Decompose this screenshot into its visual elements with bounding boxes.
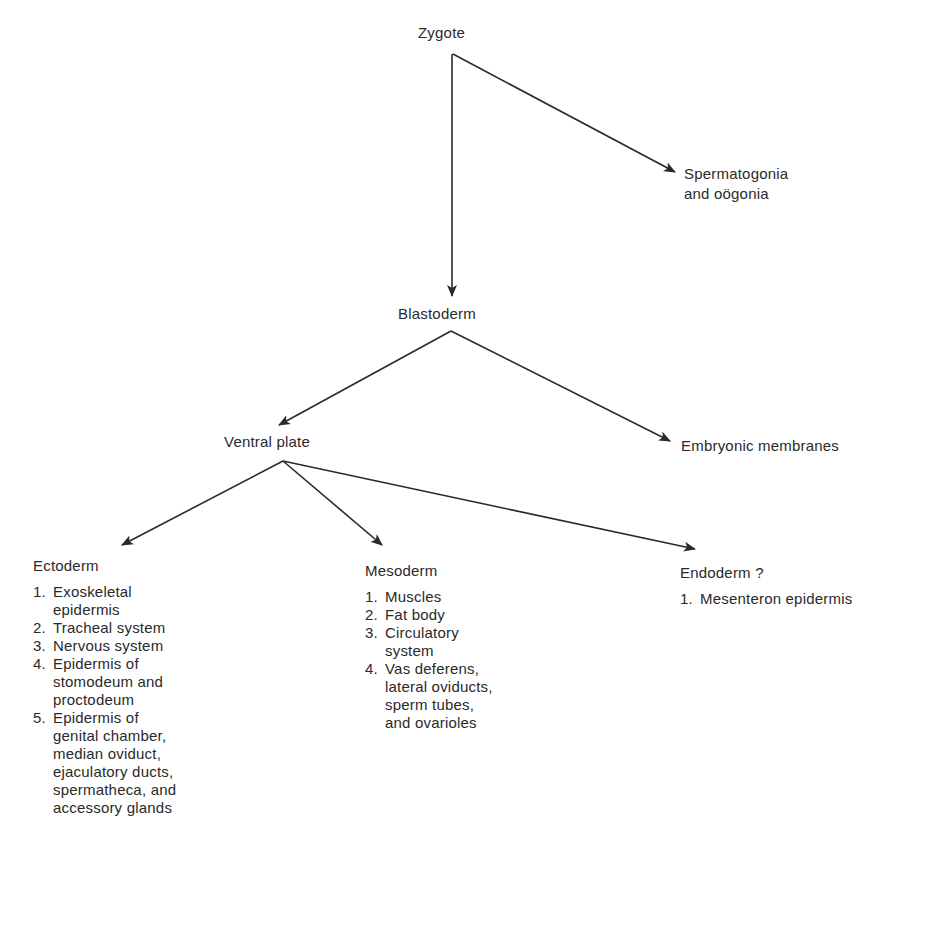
node-germ-cells: Spermatogonia and oögonia — [684, 164, 788, 204]
item-text: Tracheal system — [53, 619, 176, 637]
item-number: 1. — [365, 588, 378, 606]
list-item: 3.Circulatory system — [365, 624, 493, 660]
edge-blastoderm-to-ventral-plate — [279, 331, 451, 425]
item-text: Epidermis of genital chamber, median ovi… — [53, 709, 176, 817]
item-number: 3. — [365, 624, 378, 642]
item-text: Nervous system — [53, 637, 176, 655]
node-ventral-plate: Ventral plate — [224, 433, 310, 451]
node-zygote: Zygote — [418, 24, 465, 42]
list-item: 5.Epidermis of genital chamber, median o… — [33, 709, 176, 817]
endoderm-group: Endoderm ? 1.Mesenteron epidermis — [680, 564, 852, 608]
item-number: 4. — [33, 655, 46, 673]
item-text: Exoskeletal epidermis — [53, 583, 176, 619]
mesoderm-list: 1.Muscles 2.Fat body 3.Circulatory syste… — [365, 588, 493, 732]
item-text: Circulatory system — [385, 624, 493, 660]
ectoderm-group: Ectoderm 1.Exoskeletal epidermis 2.Trach… — [33, 557, 176, 817]
item-number: 4. — [365, 660, 378, 678]
edge-ventral-plate-to-ectoderm — [122, 461, 283, 545]
list-item: 1.Exoskeletal epidermis — [33, 583, 176, 619]
list-item: 2.Fat body — [365, 606, 493, 624]
item-number: 2. — [33, 619, 46, 637]
item-text: Fat body — [385, 606, 493, 624]
item-number: 5. — [33, 709, 46, 727]
mesoderm-title: Mesoderm — [365, 562, 493, 580]
item-text: Epidermis of stomodeum and proctodeum — [53, 655, 176, 709]
item-text: Vas deferens, lateral oviducts, sperm tu… — [385, 660, 493, 732]
item-number: 2. — [365, 606, 378, 624]
mesoderm-group: Mesoderm 1.Muscles 2.Fat body 3.Circulat… — [365, 562, 493, 732]
list-item: 1.Muscles — [365, 588, 493, 606]
list-item: 3.Nervous system — [33, 637, 176, 655]
item-text: Muscles — [385, 588, 493, 606]
item-number: 1. — [33, 583, 46, 601]
edge-blastoderm-to-embryonic-membranes — [451, 331, 670, 441]
list-item: 4.Epidermis of stomodeum and proctodeum — [33, 655, 176, 709]
item-text: Mesenteron epidermis — [700, 590, 852, 608]
list-item: 2.Tracheal system — [33, 619, 176, 637]
item-number: 1. — [680, 590, 693, 608]
list-item: 4.Vas deferens, lateral oviducts, sperm … — [365, 660, 493, 732]
edge-ventral-plate-to-endoderm — [283, 461, 695, 549]
list-item: 1.Mesenteron epidermis — [680, 590, 852, 608]
item-number: 3. — [33, 637, 46, 655]
edge-ventral-plate-to-mesoderm — [283, 461, 382, 545]
node-embryonic-membranes: Embryonic membranes — [681, 437, 839, 455]
ectoderm-title: Ectoderm — [33, 557, 176, 575]
node-blastoderm: Blastoderm — [398, 305, 476, 323]
endoderm-list: 1.Mesenteron epidermis — [680, 590, 852, 608]
ectoderm-list: 1.Exoskeletal epidermis 2.Tracheal syste… — [33, 583, 176, 817]
edge-zygote-to-germ-cells — [453, 54, 675, 172]
endoderm-title: Endoderm ? — [680, 564, 852, 582]
